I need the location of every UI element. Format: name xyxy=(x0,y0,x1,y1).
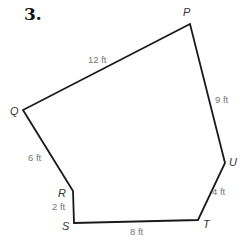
hexagon-pqrstu xyxy=(23,24,225,223)
side-length-pq: 12 ft xyxy=(88,54,107,65)
vertex-label-r: R xyxy=(58,187,66,199)
side-length-qr: 6 ft xyxy=(28,152,42,163)
vertex-label-p: P xyxy=(183,6,191,18)
side-length-labels: 12 ft 6 ft 2 ft 8 ft 4 ft 9 ft xyxy=(28,54,229,237)
vertex-label-t: T xyxy=(203,218,211,230)
hexagon-diagram: P Q R S T U 12 ft 6 ft 2 ft 8 ft 4 ft 9 … xyxy=(0,0,245,250)
side-length-rs: 2 ft xyxy=(52,201,66,212)
side-length-up: 9 ft xyxy=(215,94,229,105)
vertex-label-s: S xyxy=(62,220,70,232)
vertex-label-q: Q xyxy=(10,105,19,117)
side-length-tu: 4 ft xyxy=(212,186,226,197)
vertex-label-u: U xyxy=(229,156,237,168)
vertex-labels: P Q R S T U xyxy=(10,6,237,232)
side-length-st: 8 ft xyxy=(130,226,144,237)
